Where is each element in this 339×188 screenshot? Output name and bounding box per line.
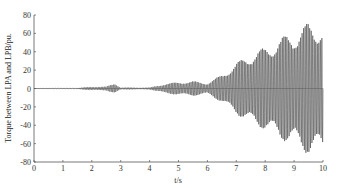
- x-tick-label: 0: [32, 164, 36, 173]
- x-tick-label: 10: [319, 164, 327, 173]
- x-tick-label: 2: [90, 164, 94, 173]
- y-tick-label: 60: [23, 29, 31, 38]
- x-tick-label: 6: [205, 164, 209, 173]
- y-axis-label: Torque between LPA and LPB/pu.: [4, 33, 13, 143]
- y-tick-label: 0: [27, 85, 31, 94]
- x-tick-label: 5: [177, 164, 181, 173]
- y-tick-label: 80: [23, 11, 31, 20]
- y-tick-label: -60: [20, 140, 31, 149]
- x-tick-label: 1: [61, 164, 65, 173]
- x-tick-label: 4: [148, 164, 152, 173]
- x-tick-label: 7: [234, 164, 238, 173]
- y-tick-label: -80: [20, 158, 31, 167]
- x-tick-label: 9: [292, 164, 296, 173]
- chart: 012345678910806040200-20-40-60-80 t/s To…: [0, 0, 339, 188]
- y-tick-label: -20: [20, 103, 31, 112]
- y-tick-label: -40: [20, 121, 31, 130]
- x-tick-label: 3: [119, 164, 123, 173]
- y-tick-label: 20: [23, 66, 31, 75]
- x-tick-label: 8: [263, 164, 267, 173]
- y-tick-label: 40: [23, 48, 31, 57]
- x-axis-label: t/s: [174, 176, 182, 185]
- signal-trace: [34, 24, 323, 153]
